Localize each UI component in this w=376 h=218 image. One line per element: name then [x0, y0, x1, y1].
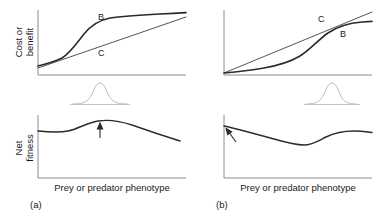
panel-b-benefit-curve [224, 21, 372, 73]
panel-a-fitness-curve [38, 120, 180, 141]
panel-a-cost-curve [38, 17, 186, 68]
panel-a-arrow-head [97, 123, 102, 129]
panel-a-bottom-plot: Net fitness Prey or predator phenotype (… [13, 115, 186, 210]
panel-a-benefit-curve [38, 13, 186, 66]
panel-b-bottom-axes [224, 115, 372, 178]
panel-a-bottom-axes [38, 115, 186, 178]
panel-a-y-axis-label: Cost or benefit [13, 27, 35, 58]
panel-a-optimum-arrow [97, 123, 102, 138]
panel-b-distribution [304, 83, 360, 105]
panel-b-x-axis-label: Prey or predator phenotype [240, 182, 356, 193]
panel-a-y-axis-label-line1: Cost or [13, 27, 24, 58]
figure-root: B C Cost or benefit Net fitness Prey or … [0, 0, 376, 218]
panel-b-cost-curve [224, 12, 372, 73]
panel-a-distribution [70, 83, 130, 105]
panel-b-benefit-label: B [340, 29, 346, 39]
panel-a-bottom-y-axis-label: Net fitness [13, 134, 35, 162]
panel-b-caption: (b) [216, 199, 228, 210]
panel-b-arrow-head [226, 128, 231, 134]
panel-a-bottom-y-axis-label-line1: Net [13, 140, 24, 155]
panel-b-bottom-plot: Prey or predator phenotype (b) [216, 115, 372, 210]
panel-a-benefit-label: B [98, 12, 104, 22]
panel-a-bottom-y-axis-label-line2: fitness [24, 134, 35, 162]
panel-a-cost-label: C [98, 48, 105, 58]
panel-a-x-axis-label: Prey or predator phenotype [54, 182, 170, 193]
panel-a-y-axis-label-line2: benefit [24, 27, 35, 56]
panel-a-top-plot: B C Cost or benefit [13, 10, 186, 75]
panel-a-caption: (a) [30, 199, 42, 210]
panel-b-top-plot: C B [224, 10, 372, 75]
panel-b-fitness-curve [224, 126, 372, 145]
panel-b-optimum-arrow [226, 128, 236, 142]
panel-b-cost-label: C [318, 14, 325, 24]
panel-b-distribution-curve [306, 83, 357, 104]
panel-a-distribution-curve [72, 83, 128, 104]
